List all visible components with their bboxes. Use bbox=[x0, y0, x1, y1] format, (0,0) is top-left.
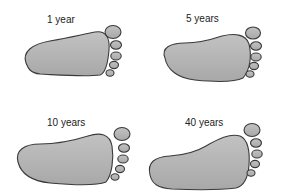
label-5-years: 5 years bbox=[186, 13, 219, 24]
feet-illustration bbox=[0, 0, 282, 196]
foot-1-year bbox=[25, 26, 121, 77]
foot-40-years bbox=[149, 124, 262, 190]
foot-5-years bbox=[164, 27, 261, 81]
label-1-year: 1 year bbox=[47, 14, 75, 25]
label-40-years: 40 years bbox=[185, 117, 223, 128]
label-10-years: 10 years bbox=[47, 117, 85, 128]
foot-10-years bbox=[17, 128, 130, 185]
foot-diagram: 1 year 5 years 10 years 40 years bbox=[0, 0, 282, 196]
